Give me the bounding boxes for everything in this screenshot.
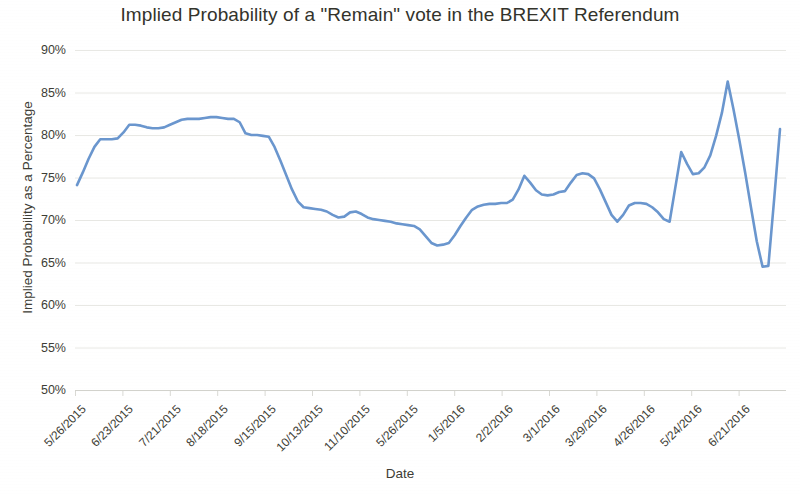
chart-container: Implied Probability of a "Remain" vote i… xyxy=(0,0,800,494)
y-axis-tick-label: 55% xyxy=(18,342,66,354)
y-axis-tick-label: 90% xyxy=(18,44,66,56)
gridlines xyxy=(75,51,786,391)
data-series-line xyxy=(77,81,780,266)
y-axis-tick-label: 75% xyxy=(18,172,66,184)
y-axis-tick-label: 70% xyxy=(18,214,66,226)
y-axis-tick-label: 50% xyxy=(18,384,66,396)
y-axis-tick-label: 80% xyxy=(18,129,66,141)
y-axis-tick-label: 65% xyxy=(18,257,66,269)
y-axis-tick-label: 85% xyxy=(18,87,66,99)
y-axis-tick-label: 60% xyxy=(18,299,66,311)
